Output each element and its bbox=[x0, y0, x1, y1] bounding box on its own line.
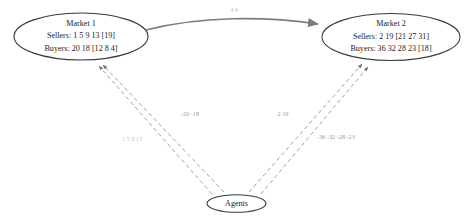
node-agents-title: Agents bbox=[225, 199, 248, 208]
edge-market1-to-market2-line bbox=[146, 19, 318, 30]
edge-agents-to-market2-a-line bbox=[249, 64, 362, 192]
edge-agents-to-market1-b-line bbox=[103, 65, 224, 192]
node-market2-title: Market 2 bbox=[376, 19, 405, 28]
node-market2-sellers: Sellers: 2 19 [21 27 31] bbox=[353, 32, 430, 41]
node-market2[interactable]: Market 2 Sellers: 2 19 [21 27 31] Buyers… bbox=[322, 14, 460, 61]
edge-market1-to-market2-label: 4 4 bbox=[230, 6, 238, 13]
node-market1[interactable]: Market 1 Sellers: 1 5 9 13 [19] Buyers: … bbox=[14, 13, 148, 60]
node-market1-sellers: Sellers: 1 5 9 13 [19] bbox=[47, 31, 115, 40]
node-market1-buyers: Buyers: 20 18 [12 8 4] bbox=[44, 44, 117, 53]
edge-agents-to-market2-a: 2 19 bbox=[249, 64, 362, 192]
edge-agents-to-market1-a-label: 1 5 9 13 bbox=[122, 135, 142, 142]
edge-agents-to-market1-b-label: -20 -18 bbox=[181, 110, 199, 117]
graph-svg: 4 4 1 5 9 13 -20 -18 2 19 -36 -32 -28 -2… bbox=[0, 0, 468, 222]
edge-agents-to-market1-a: 1 5 9 13 bbox=[99, 66, 212, 194]
edge-agents-to-market1-b: -20 -18 bbox=[103, 65, 224, 192]
edge-agents-to-market2-b-line bbox=[261, 67, 368, 194]
node-market2-buyers: Buyers: 36 32 28 23 [18] bbox=[350, 44, 431, 53]
edge-agents-to-market1-a-line bbox=[99, 66, 212, 194]
edge-agents-to-market2-b: -36 -32 -28 -23 bbox=[261, 67, 368, 194]
edge-agents-to-market2-b-label: -36 -32 -28 -23 bbox=[317, 133, 355, 140]
diagram-canvas: 4 4 1 5 9 13 -20 -18 2 19 -36 -32 -28 -2… bbox=[0, 0, 468, 222]
node-agents[interactable]: Agents bbox=[207, 195, 266, 213]
node-market1-title: Market 1 bbox=[66, 19, 95, 28]
edge-market1-to-market2: 4 4 bbox=[146, 6, 318, 30]
edge-agents-to-market2-a-label: 2 19 bbox=[278, 110, 289, 117]
